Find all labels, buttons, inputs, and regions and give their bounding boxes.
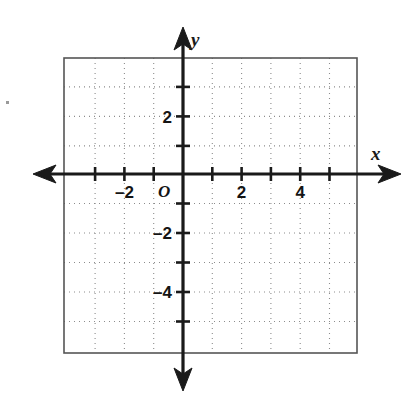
x-axis-letter-label: x [370, 143, 381, 164]
x-tick-label--2: –2 [115, 183, 134, 202]
y-axis-letter-label: y [189, 29, 200, 50]
x-tick-label-4: 4 [295, 183, 305, 202]
x-tick-label-2: 2 [237, 183, 246, 202]
plot-area [64, 58, 357, 353]
y-tick-label--4: –4 [153, 283, 172, 302]
y-tick-label-2: 2 [163, 108, 172, 127]
scan-speck [6, 101, 9, 104]
coordinate-plane-figure: y x O –2 2 4 2 –2 –4 [0, 0, 412, 401]
coordinate-plane-svg: y x O –2 2 4 2 –2 –4 [0, 0, 412, 401]
y-tick-label--2: –2 [153, 224, 172, 243]
origin-label: O [158, 182, 170, 201]
plot-area-fill [64, 58, 357, 353]
